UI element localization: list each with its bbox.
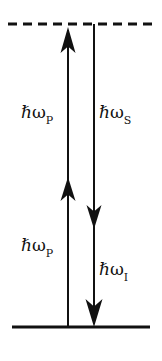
energy-level-diagram: ℏωP ℏωS ℏωP ℏωI <box>0 0 162 361</box>
hbar-symbol: ℏ <box>99 102 110 122</box>
hbar-symbol: ℏ <box>99 259 110 279</box>
label-idler: ℏωI <box>99 261 128 281</box>
subscript-stokes: S <box>124 114 132 127</box>
omega-symbol: ω <box>32 102 46 122</box>
omega-symbol: ω <box>110 259 124 279</box>
diagram-canvas <box>0 0 162 361</box>
hbar-symbol: ℏ <box>21 235 32 255</box>
omega-symbol: ω <box>110 102 124 122</box>
label-pump-upper: ℏωP <box>21 104 53 124</box>
omega-symbol: ω <box>32 235 46 255</box>
hbar-symbol: ℏ <box>21 102 32 122</box>
subscript-idler: I <box>124 271 128 284</box>
subscript-pump: P <box>46 114 53 127</box>
label-stokes: ℏωS <box>99 104 131 124</box>
subscript-pump: P <box>46 247 53 260</box>
label-pump-lower: ℏωP <box>21 237 53 257</box>
